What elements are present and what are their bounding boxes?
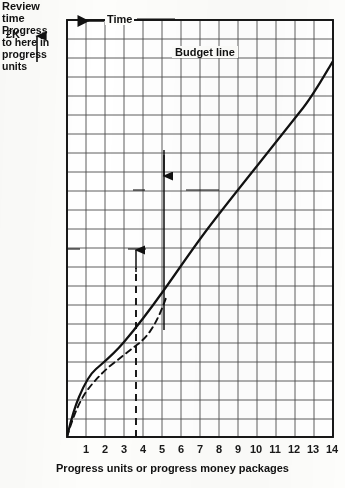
progress-label-line4: units	[2, 60, 343, 72]
progress-to-here-label: Progress to here in progress units	[0, 24, 345, 72]
x-tick-10: 10	[248, 443, 264, 455]
x-tick-9: 9	[230, 443, 246, 455]
x-tick-11: 11	[267, 443, 283, 455]
x-tick-7: 7	[192, 443, 208, 455]
x-tick-6: 6	[173, 443, 189, 455]
x-tick-2: 2	[97, 443, 113, 455]
x-tick-8: 8	[211, 443, 227, 455]
progress-label-line1: Progress	[2, 24, 343, 36]
x-tick-3: 3	[116, 443, 132, 455]
review-time-label-line2: time	[2, 12, 343, 24]
chart-canvas	[0, 0, 345, 488]
progress-label-line2: to here in	[2, 36, 343, 48]
x-tick-14: 14	[324, 443, 340, 455]
x-tick-13: 13	[305, 443, 321, 455]
x-axis-label: Progress units or progress money package…	[0, 462, 345, 474]
x-tick-1: 1	[78, 443, 94, 455]
review-time-label: Review time	[0, 0, 345, 24]
review-time-label-line1: Review	[2, 0, 343, 12]
chart-figure: £K Time Budget line Review time Progress…	[0, 0, 345, 488]
x-tick-12: 12	[286, 443, 302, 455]
x-tick-5: 5	[154, 443, 170, 455]
x-tick-4: 4	[135, 443, 151, 455]
progress-label-line3: progress	[2, 48, 343, 60]
